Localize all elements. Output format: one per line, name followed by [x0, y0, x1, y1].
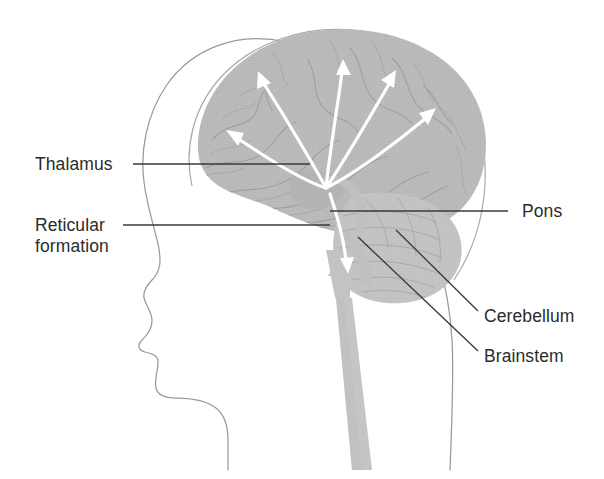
- label-brainstem: Brainstem: [484, 346, 564, 366]
- label-thalamus: Thalamus: [35, 154, 113, 174]
- label-pons: Pons: [522, 201, 562, 221]
- label-reticular-formation-line2: formation: [35, 236, 109, 256]
- label-cerebellum: Cerebellum: [484, 306, 574, 326]
- anatomy-figure: Thalamus Reticular formation Pons Cerebe…: [0, 0, 604, 479]
- label-reticular-formation-line1: Reticular: [35, 215, 105, 235]
- brain-diagram-svg: Thalamus Reticular formation Pons Cerebe…: [0, 0, 604, 479]
